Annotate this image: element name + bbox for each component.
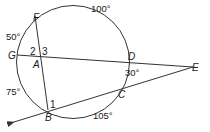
arc-label-105: 105°	[93, 110, 113, 121]
angle-label-3: 3	[42, 46, 48, 57]
point-label-C: C	[118, 89, 126, 100]
arc-label-100: 100°	[91, 3, 111, 14]
point-label-B: B	[45, 112, 52, 123]
point-label-F: F	[33, 12, 40, 23]
point-label-E: E	[192, 62, 199, 73]
point-label-D: D	[128, 51, 135, 62]
point-label-G: G	[8, 50, 16, 61]
angle-label-2: 2	[30, 46, 36, 57]
geometry-diagram: F G A D E C B 1 2 3 100° 50° 30° 75° 105…	[0, 0, 210, 132]
point-label-A: A	[32, 59, 40, 70]
angle-label-1: 1	[50, 99, 56, 110]
arc-label-30: 30°	[125, 67, 140, 78]
arc-label-50: 50°	[6, 31, 21, 42]
arc-label-75: 75°	[6, 86, 21, 97]
